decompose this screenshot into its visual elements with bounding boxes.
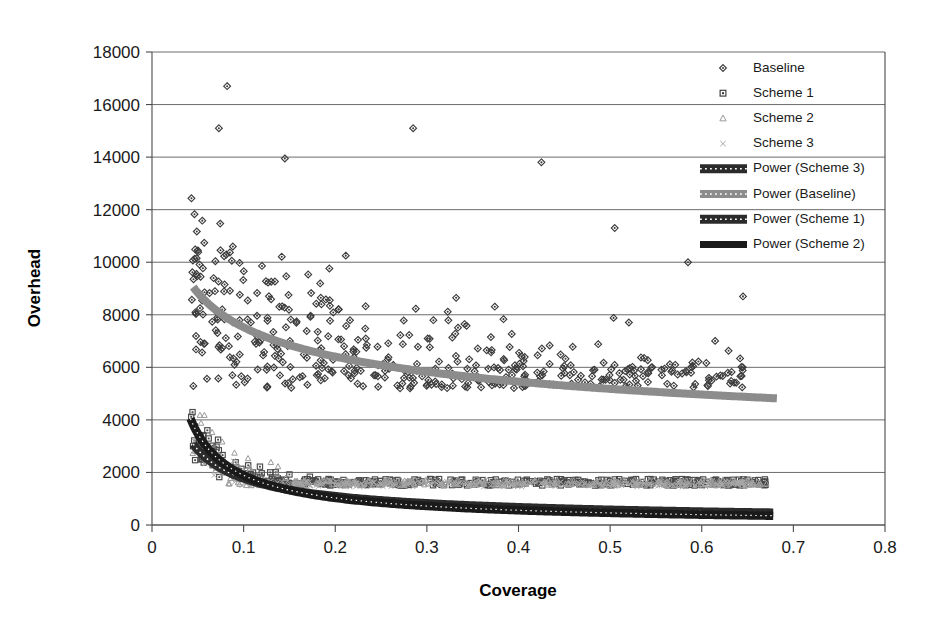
legend-label: Scheme 1 <box>753 85 814 100</box>
legend-label: Scheme 3 <box>753 135 814 150</box>
x-tick-label: 0.7 <box>782 538 806 557</box>
x-tick-label: 0.6 <box>690 538 714 557</box>
x-tick-label: 0.5 <box>598 538 622 557</box>
chart-container: 0200040006000800010000120001400016000180… <box>0 0 940 619</box>
y-tick-label: 14000 <box>93 148 140 167</box>
y-tick-label: 8000 <box>102 306 140 325</box>
x-tick-label: 0.1 <box>232 538 256 557</box>
x-tick-label: 0.3 <box>415 538 439 557</box>
legend-label: Power (Scheme 1) <box>753 211 865 226</box>
legend-label: Baseline <box>753 60 805 75</box>
x-tick-label: 0.4 <box>507 538 531 557</box>
x-axis-title: Coverage <box>479 581 556 600</box>
overhead-vs-coverage-chart: 0200040006000800010000120001400016000180… <box>0 0 940 619</box>
legend-label: Scheme 2 <box>753 110 814 125</box>
y-tick-label: 6000 <box>102 358 140 377</box>
y-tick-label: 2000 <box>102 463 140 482</box>
x-tick-label: 0.2 <box>323 538 347 557</box>
y-axis-title: Overhead <box>25 249 44 327</box>
legend-label: Power (Scheme 2) <box>753 236 865 251</box>
legend-label: Power (Scheme 3) <box>753 160 865 175</box>
y-tick-label: 4000 <box>102 411 140 430</box>
y-tick-label: 0 <box>131 516 140 535</box>
x-tick-label: 0 <box>147 538 156 557</box>
y-tick-label: 12000 <box>93 201 140 220</box>
legend-label: Power (Baseline) <box>753 186 856 201</box>
y-tick-label: 10000 <box>93 253 140 272</box>
y-tick-label: 18000 <box>93 43 140 62</box>
x-tick-label: 0.8 <box>873 538 897 557</box>
y-tick-label: 16000 <box>93 96 140 115</box>
